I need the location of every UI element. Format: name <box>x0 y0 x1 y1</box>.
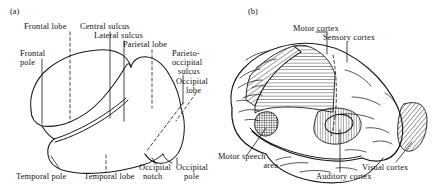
label-lateral-sulcus: Lateral sulcus <box>94 31 143 40</box>
visual-cortex-region <box>394 98 434 156</box>
brain-anatomy-figure: (a) Frontal lobe Central sulcus Lateral … <box>0 0 436 189</box>
label-parieto-occipital-line1: Parieto- <box>172 49 200 58</box>
auditory-cortex-region <box>310 104 368 148</box>
label-occipital-pole-line2: pole <box>184 172 199 181</box>
label-frontal-pole-line2: pole <box>20 58 35 67</box>
label-visual-cortex: Visual cortex <box>362 163 408 172</box>
label-temporal-lobe: Temporal lobe <box>84 172 134 181</box>
label-auditory-cortex: Auditory cortex <box>316 172 372 181</box>
label-motor-cortex: Motor cortex <box>293 24 339 33</box>
panel-b-marker: (b) <box>248 7 258 16</box>
label-sensory-cortex: Sensory cortex <box>323 33 375 42</box>
label-parietal-lobe: Parietal lobe <box>123 40 167 49</box>
label-parieto-occipital-line2: occipital <box>172 58 202 67</box>
label-temporal-pole: Temporal pole <box>16 172 66 181</box>
label-motor-speech-area-line2: area <box>218 161 278 170</box>
label-occipital-lobe-line1: Occipital <box>176 77 208 86</box>
label-motor-speech-area-line1: Motor speech <box>218 152 266 161</box>
label-occipital-lobe-line2: lobe <box>186 86 201 95</box>
panel-a-marker: (a) <box>10 7 19 16</box>
label-occipital-notch-line1: Occipital <box>139 163 171 172</box>
label-frontal-lobe: Frontal lobe <box>24 22 67 31</box>
label-occipital-pole-line1: Occipital <box>176 163 208 172</box>
label-occipital-notch-line2: notch <box>143 172 162 181</box>
label-parieto-occipital-line3: sulcus <box>178 67 200 76</box>
label-central-sulcus: Central sulcus <box>80 22 130 31</box>
label-frontal-pole-line1: Frontal <box>20 49 45 58</box>
